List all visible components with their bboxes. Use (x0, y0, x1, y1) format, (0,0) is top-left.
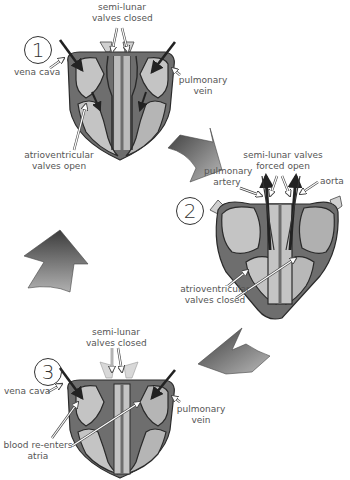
label-s1-semilunar: semi-lunar valves closed (92, 2, 152, 24)
stage-number-2: 2 (176, 197, 204, 225)
label-s3-vena-cava: vena cava (4, 386, 50, 397)
heart-stage-3 (60, 362, 175, 478)
vessel-left (100, 42, 112, 52)
label-s1-pulmonary-vein: pulmonary vein (178, 75, 228, 97)
stage-number-3: 3 (34, 358, 62, 386)
label-s1-av-open: atrioventricular valves open (14, 150, 104, 172)
label-s2-av-closed: atrioventricular valves closed (170, 284, 260, 306)
label-s3-blood-reenters: blood re-enters atria (0, 440, 76, 462)
label-s3-semilunar: semi-lunar valves closed (86, 327, 146, 349)
label-s1-vena-cava: vena cava (14, 67, 60, 78)
stage-number-1: 1 (24, 36, 52, 64)
label-s2-pulmonary-artery: pulmonary artery (204, 166, 250, 188)
cycle-arrow-3-to-1 (24, 230, 88, 292)
cycle-arrow-2-to-3 (198, 328, 270, 374)
label-s3-pulmonary-vein: pulmonary vein (176, 404, 226, 426)
label-s2-aorta: aorta (320, 176, 344, 187)
